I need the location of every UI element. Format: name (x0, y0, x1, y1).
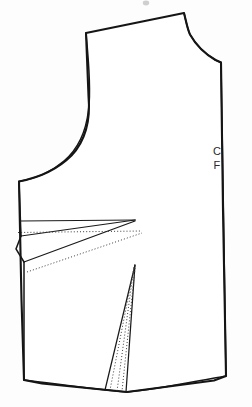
bodice-outline (19, 13, 226, 392)
center-front-label-f: F (211, 159, 223, 172)
pattern-diagram-canvas: C F (0, 0, 252, 407)
scan-speck-artifact (143, 1, 149, 6)
center-front-label-c: C (211, 145, 223, 158)
bodice-front-pattern-svg (0, 0, 252, 407)
